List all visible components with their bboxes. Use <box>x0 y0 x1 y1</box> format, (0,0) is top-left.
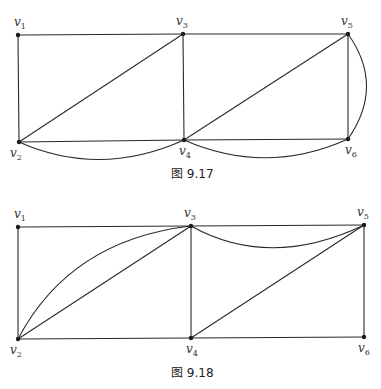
label-v5: v5 <box>341 14 353 30</box>
curved-edge-v3-v5 <box>191 225 364 248</box>
label-v2: v2 <box>10 146 22 162</box>
figure-9-17: v1 v3 v5 v2 v4 v6 图 9.17 <box>10 14 367 181</box>
label-v4: v4 <box>186 342 198 358</box>
edge-v2-v3 <box>18 226 191 339</box>
label-v5: v5 <box>357 205 369 221</box>
edge-v4-v5 <box>184 34 348 140</box>
label-v1: v1 <box>14 207 26 223</box>
label-v2: v2 <box>10 343 22 359</box>
edge-v4-v5 <box>191 225 364 338</box>
vertex-v1 <box>16 225 20 229</box>
vertex-v1 <box>16 33 20 37</box>
vertex-v6 <box>362 335 366 339</box>
figure-caption: 图 9.18 <box>171 366 214 380</box>
label-v6: v6 <box>358 341 370 357</box>
vertex-v5 <box>346 32 350 36</box>
edge-v2-v4 <box>19 140 184 142</box>
edge-v3-v4 <box>183 34 184 140</box>
label-v3: v3 <box>184 206 196 222</box>
curved-edge-v5-v6 <box>348 34 367 139</box>
edge-v3-v5 <box>191 225 364 226</box>
figure-caption: 图 9.17 <box>171 167 214 181</box>
edge-v2-v3 <box>19 34 183 142</box>
vertex-v6 <box>346 137 350 141</box>
vertex-v2 <box>17 140 21 144</box>
curved-edge-v4-v6 <box>184 139 348 158</box>
graph-figures: v1 v3 v5 v2 v4 v6 图 9.17 v1 v3 v5 v2 v4 … <box>0 0 381 389</box>
vertex-v3 <box>189 224 193 228</box>
label-v6: v6 <box>345 143 357 159</box>
edge-v1-v3 <box>18 34 183 35</box>
vertex-v2 <box>16 337 20 341</box>
edge-v1-v3 <box>18 226 191 227</box>
figure-9-18: v1 v3 v5 v2 v4 v6 图 9.18 <box>10 205 370 380</box>
edge-v4-v6 <box>184 139 348 140</box>
label-v3: v3 <box>176 14 188 30</box>
vertex-v3 <box>181 32 185 36</box>
curved-edge-v2-v4 <box>19 140 184 160</box>
edge-v4-v6 <box>191 337 364 338</box>
vertex-v5 <box>362 223 366 227</box>
edge-v2-v4 <box>18 338 191 339</box>
vertex-v4 <box>189 336 193 340</box>
label-v4: v4 <box>179 144 191 160</box>
label-v1: v1 <box>14 15 26 31</box>
edge-v1-v2 <box>18 35 19 142</box>
vertex-v4 <box>182 138 186 142</box>
